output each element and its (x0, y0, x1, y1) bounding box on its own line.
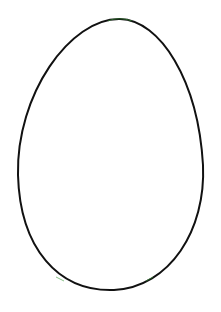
egg-outline (18, 19, 203, 290)
egg-drawing (0, 0, 221, 312)
egg-bottom-highlight-left (56, 277, 64, 281)
